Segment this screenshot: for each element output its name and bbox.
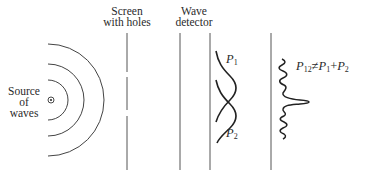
p12-equation-label: P12≠P1+P2 <box>296 59 349 74</box>
screen-label-line2: with holes <box>96 17 158 28</box>
screen-label: Screen with holes <box>96 6 158 28</box>
circled-dot-icon <box>48 97 54 103</box>
p1-label: P1 <box>226 52 238 67</box>
wavefront-middle <box>48 64 84 136</box>
source-label-line3: waves <box>4 108 44 119</box>
double-slit-diagram: Source of waves Screen with holes Wave d… <box>0 0 366 175</box>
wavefront-outer <box>48 44 104 156</box>
detector-label: Wave detector <box>164 6 224 28</box>
wavefronts <box>48 44 104 156</box>
p2-label: P2 <box>226 126 238 141</box>
source-label: Source of waves <box>4 86 44 119</box>
detector-label-line2: detector <box>164 17 224 28</box>
